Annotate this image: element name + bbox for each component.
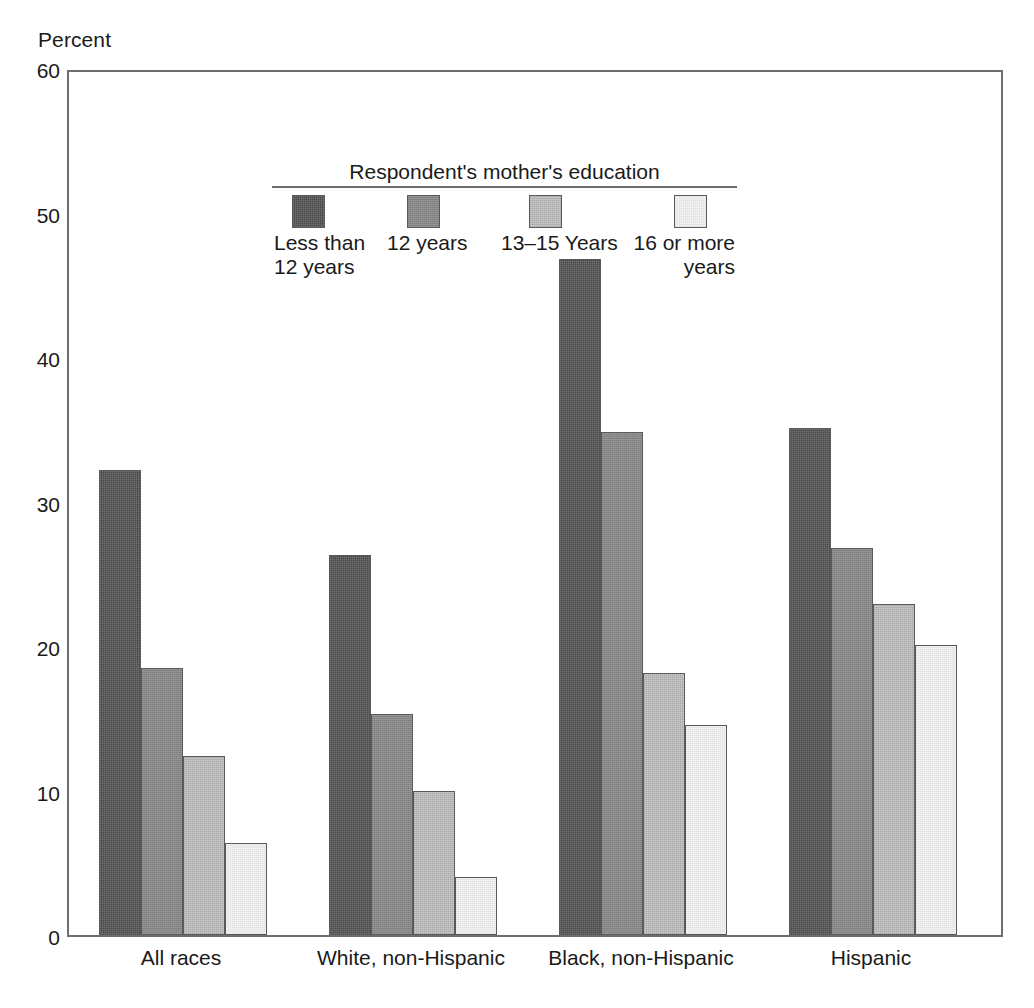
legend-swatch-less-than-12-years	[292, 195, 325, 228]
y-axis-tick-30: 30	[2, 493, 60, 514]
y-axis-caption: Percent	[38, 28, 111, 52]
bar-4-3	[873, 604, 915, 935]
legend-items: Less than 12 years12 years13–15 Years16 …	[272, 188, 737, 272]
y-axis-tick-labels: 6050403020100	[0, 70, 60, 937]
legend-label-12-years: 12 years	[385, 231, 505, 255]
bar-4-4	[915, 645, 957, 935]
plot-area: Respondent's mother's education Less tha…	[67, 70, 1003, 937]
y-axis-tick-10: 10	[2, 782, 60, 803]
legend-item-16-or-more-years: 16 or more years	[617, 188, 737, 279]
legend-label-16-or-more-years: 16 or more years	[617, 231, 737, 279]
bar-3-3	[643, 673, 685, 935]
legend-swatch-13-15-years	[529, 195, 562, 228]
y-axis-tick-50: 50	[2, 204, 60, 225]
bar-3-2	[601, 432, 643, 935]
y-axis-tick-60: 60	[2, 60, 60, 81]
bar-1-1	[99, 470, 141, 935]
bar-2-4	[455, 877, 497, 935]
bar-3-1	[559, 259, 601, 935]
bar-2-1	[329, 555, 371, 935]
legend-label-less-than-12-years: Less than 12 years	[272, 231, 392, 279]
y-axis-tick-0: 0	[2, 927, 60, 948]
bar-2-2	[371, 714, 413, 935]
legend-item-13-15-years: 13–15 Years	[499, 188, 619, 255]
bar-3-4	[685, 725, 727, 935]
x-axis-tick-white-non-hispanic: White, non-Hispanic	[317, 946, 505, 970]
legend-swatch-16-or-more-years	[674, 195, 707, 228]
bar-4-1	[789, 428, 831, 935]
legend: Respondent's mother's education Less tha…	[272, 160, 737, 272]
bar-group-hispanic	[789, 72, 957, 935]
legend-item-12-years: 12 years	[385, 188, 505, 255]
legend-item-less-than-12-years: Less than 12 years	[272, 188, 392, 279]
x-axis-tick-all-races: All races	[141, 946, 222, 970]
y-axis-tick-20: 20	[2, 638, 60, 659]
legend-swatch-12-years	[407, 195, 440, 228]
bar-1-2	[141, 668, 183, 935]
x-axis-tick-black-non-hispanic: Black, non-Hispanic	[548, 946, 734, 970]
bar-group-all-races	[99, 72, 267, 935]
legend-title: Respondent's mother's education	[272, 160, 737, 186]
bar-chart-figure: Percent 6050403020100 Respondent's mothe…	[0, 0, 1034, 1008]
bar-4-2	[831, 548, 873, 935]
legend-label-13-15-years: 13–15 Years	[499, 231, 619, 255]
bar-2-3	[413, 791, 455, 936]
x-axis-tick-labels: All racesWhite, non-HispanicBlack, non-H…	[67, 946, 1003, 986]
x-axis-tick-hispanic: Hispanic	[831, 946, 912, 970]
bar-1-4	[225, 843, 267, 935]
y-axis-tick-40: 40	[2, 349, 60, 370]
bar-1-3	[183, 756, 225, 935]
